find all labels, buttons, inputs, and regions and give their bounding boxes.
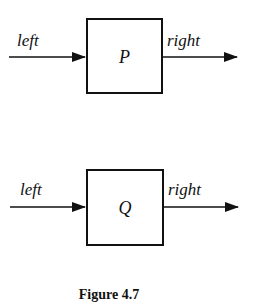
block-p-group: left P right [9,19,237,93]
block-p-name: P [118,47,130,67]
output-label-p: right [167,31,201,50]
input-label-q: left [20,180,43,199]
output-label-q: right [168,180,202,199]
figure-canvas: left P right left Q right Figure 4.7 [0,0,259,308]
input-label-p: left [17,31,40,50]
block-q-name: Q [119,198,132,218]
block-q-group: left Q right [10,170,238,245]
figure-caption: Figure 4.7 [79,287,139,302]
